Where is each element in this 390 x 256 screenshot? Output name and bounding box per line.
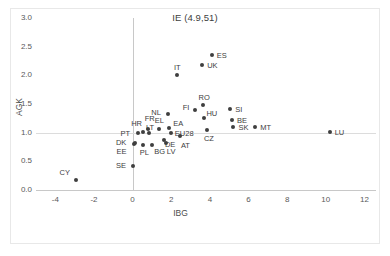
- x-tick-label: 12: [352, 196, 376, 204]
- data-point: [133, 141, 137, 145]
- data-point-label: NL: [151, 109, 161, 117]
- y-tick-label: 3.0: [6, 14, 32, 22]
- data-point-label: EE: [117, 148, 127, 156]
- data-point-label: RO: [199, 94, 210, 102]
- data-point: [230, 118, 234, 122]
- y-tick-label: 2.5: [6, 43, 32, 51]
- data-point-label: SI: [235, 106, 242, 114]
- y-axis-title: AGK: [14, 98, 24, 116]
- data-point: [210, 53, 214, 57]
- data-point: [178, 134, 182, 138]
- data-point-label: HU: [206, 110, 217, 118]
- data-point: [141, 143, 145, 147]
- data-point-label: PT: [120, 130, 130, 138]
- data-point-label: DK: [116, 139, 126, 147]
- data-point: [231, 125, 235, 129]
- x-tick-label: 2: [159, 196, 183, 204]
- data-point-label: LT: [146, 124, 154, 132]
- data-point: [167, 126, 171, 130]
- y-tick-label: 1.0: [6, 129, 32, 137]
- data-point: [131, 164, 135, 168]
- x-tick-label: 8: [275, 196, 299, 204]
- data-point-label: CY: [60, 169, 70, 177]
- data-point-label: AT: [181, 142, 190, 150]
- data-point: [164, 141, 168, 145]
- x-tick-label: -2: [82, 196, 106, 204]
- data-point: [205, 128, 209, 132]
- data-point: [253, 125, 257, 129]
- data-point: [193, 108, 197, 112]
- x-tick-label: 6: [237, 196, 261, 204]
- data-point-label: BG: [154, 148, 165, 156]
- x-tick-label: 10: [314, 196, 338, 204]
- data-point-label: SK: [238, 124, 248, 132]
- x-tick-label: 0: [121, 196, 145, 204]
- data-point: [200, 63, 204, 67]
- data-point-label: IT: [174, 64, 181, 72]
- data-point-label: MT: [260, 124, 271, 132]
- data-point: [141, 130, 145, 134]
- data-point: [157, 127, 161, 131]
- x-tick-label: 4: [198, 196, 222, 204]
- y-tick-label: 2.0: [6, 71, 32, 79]
- data-point-label: CZ: [204, 135, 214, 143]
- data-point: [228, 107, 232, 111]
- data-point-label: UK: [207, 62, 217, 70]
- data-point-label: ES: [217, 52, 227, 60]
- x-axis-line: [36, 190, 376, 191]
- data-point: [328, 130, 332, 134]
- data-point: [136, 131, 140, 135]
- data-point-label: PL: [140, 149, 149, 157]
- x-axis-title: IBG: [151, 208, 211, 218]
- y-tick-label: 0.5: [6, 157, 32, 165]
- data-point: [175, 73, 179, 77]
- data-point-label: EL: [155, 117, 164, 125]
- data-point: [74, 178, 78, 182]
- data-point-label: FI: [183, 104, 190, 112]
- data-point-label: LV: [167, 148, 176, 156]
- x-tick-label: -4: [43, 196, 67, 204]
- data-point-label: HR: [131, 120, 142, 128]
- data-point: [201, 103, 205, 107]
- data-point-label: SE: [116, 162, 126, 170]
- data-point: [166, 112, 170, 116]
- data-point-label: LU: [335, 129, 345, 137]
- y-tick-label: 0.0: [6, 186, 32, 194]
- scatter-chart: IE (4.9,51) 0.00.51.01.52.02.53.0-4-2024…: [0, 0, 390, 256]
- data-point-label: EA: [173, 120, 183, 128]
- data-point: [169, 131, 173, 135]
- plot-area: 0.00.51.01.52.02.53.0-4-2024681012CYSEEE…: [36, 18, 376, 190]
